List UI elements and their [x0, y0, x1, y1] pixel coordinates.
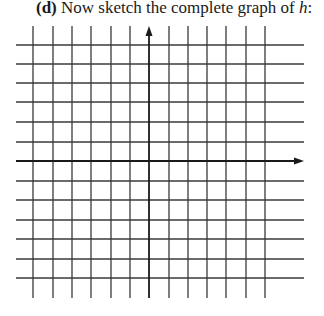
y-axis-arrow-icon: [146, 26, 153, 36]
graph-grid[interactable]: [0, 0, 324, 316]
x-axis-arrow-icon: [294, 158, 304, 165]
